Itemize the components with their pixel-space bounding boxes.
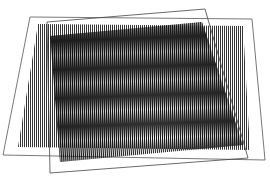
moire-scene bbox=[0, 0, 270, 181]
